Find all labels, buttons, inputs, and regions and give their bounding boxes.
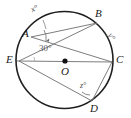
leader-x — [43, 20, 46, 29]
chord-eb — [19, 23, 97, 61]
chord-ab — [31, 23, 97, 37]
geometry-diagram-svg — [0, 0, 131, 118]
vertex-label-d: D — [90, 103, 98, 114]
vertex-label-e: E — [6, 54, 13, 65]
angle-arc-30 — [34, 57, 35, 61]
angle-arc-z — [82, 92, 90, 95]
angle-arc-x — [44, 30, 46, 41]
geometry-figure: A B C D E O x° y° z° 30° — [0, 0, 131, 118]
angle-label-z: z° — [80, 82, 86, 90]
angle-label-30: 30° — [39, 44, 52, 53]
vertex-label-c: C — [116, 54, 123, 65]
vertex-label-b: B — [95, 8, 102, 19]
center-point-o — [62, 58, 67, 63]
vertex-label-a: A — [22, 28, 29, 39]
chord-dc — [92, 62, 112, 101]
vertex-label-o: O — [61, 66, 69, 77]
